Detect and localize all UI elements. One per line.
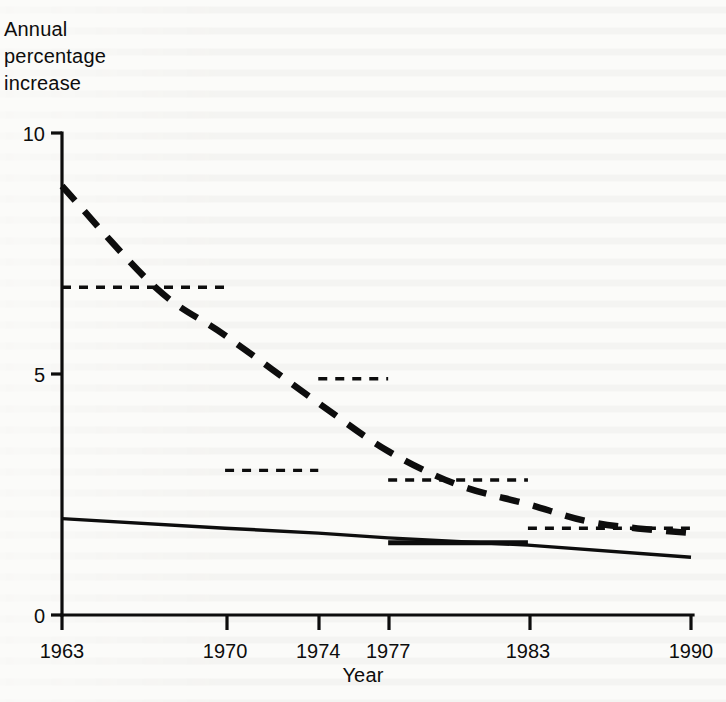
y-tick-marks	[51, 133, 62, 615]
actual-trend-solid-line	[62, 519, 691, 558]
x-tick-label-1983: 1983	[506, 640, 551, 662]
x-tick-label-1970: 1970	[203, 640, 248, 662]
y-tick-label-10: 10	[23, 123, 45, 145]
projected-trend-dashed-curve	[62, 186, 691, 533]
x-tick-label-1974: 1974	[296, 640, 341, 662]
x-tick-label-1977: 1977	[366, 640, 411, 662]
period-average-dashed-bars	[62, 287, 691, 528]
x-tick-marks	[62, 615, 691, 630]
x-tick-label-1990: 1990	[669, 640, 714, 662]
x-axis-title: Year	[0, 662, 726, 689]
y-tick-label-5: 5	[34, 364, 45, 386]
y-tick-label-0: 0	[34, 605, 45, 627]
line-chart: 10 5 0 1963 1970 1974 1977 1983 1990	[0, 0, 726, 702]
chart-page: Annual percentage increase 10 5 0 1963 1…	[0, 0, 726, 702]
x-tick-label-1963: 1963	[40, 640, 85, 662]
